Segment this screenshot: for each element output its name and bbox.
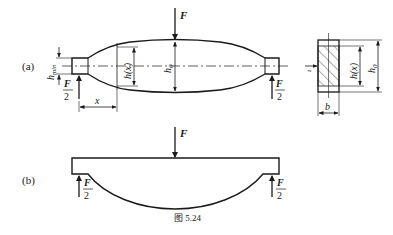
section-dim-h0: h0 [366,64,379,73]
dim-x-label: x [94,95,100,106]
support-left-den-b: 2 [84,190,89,201]
panel-a: (a) F h0 h(x) hmin F 2 x [22,8,382,116]
dim-hmin-label: hmin [45,64,58,80]
support-right-den-b: 2 [277,190,282,201]
section-axis-label: z [306,69,312,73]
load-label-f-b: F [179,127,188,139]
figure-caption: 图 5.24 [174,213,202,223]
load-label-f: F [179,9,188,21]
panel-b-label: (b) [22,174,35,187]
support-left-num: F [63,78,71,89]
dim-hx-label: h(x) [122,62,134,79]
panel-a-label: (a) [22,60,35,73]
panel-b: (b) F F 2 F 2 [22,127,286,209]
support-left-num-b: F [83,177,91,188]
support-right-den: 2 [277,91,282,102]
support-right-num: F [275,78,283,89]
fish-belly-beam-outline [72,158,279,209]
section-dim-hx: h(x) [348,62,360,79]
support-right-num-b: F [276,177,284,188]
cross-section: z h(x) h0 b [305,33,382,116]
figure-canvas: (a) F h0 h(x) hmin F 2 x [0,0,393,235]
support-left-den: 2 [64,91,69,102]
dim-h0-label: h0 [162,64,175,73]
section-dim-b: b [325,101,330,112]
